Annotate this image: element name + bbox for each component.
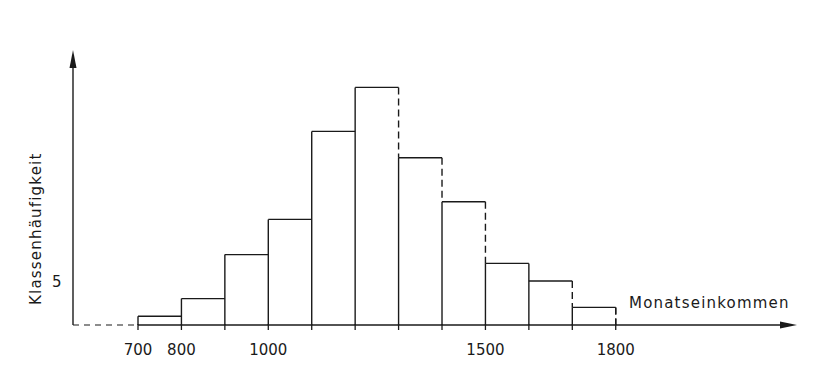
histogram-bar (442, 202, 485, 325)
x-tick-label-700: 700 (124, 341, 153, 359)
y-axis-label: Klassenhäufigkeit (27, 152, 45, 305)
histogram-bar (572, 307, 615, 325)
histogram-bars (138, 87, 616, 325)
x-tick-label-1500: 1500 (466, 341, 504, 359)
histogram-bar (529, 281, 572, 325)
histogram-bar (355, 87, 398, 325)
x-tick-label-1800: 1800 (597, 341, 635, 359)
histogram-bar (399, 158, 442, 325)
y-axis-arrow-icon (70, 50, 77, 68)
histogram-bar (138, 316, 181, 325)
histogram-bar (225, 255, 268, 325)
y-tick-label-5: 5 (52, 273, 62, 291)
histogram-bar (485, 263, 528, 325)
y-axis (70, 50, 77, 325)
x-axis-label: Monatseinkommen (629, 294, 790, 312)
x-ticks: 700800100015001800 (124, 324, 635, 359)
x-axis-arrow-icon (780, 322, 797, 329)
histogram-bar (181, 299, 224, 325)
x-tick-label-1000: 1000 (249, 341, 287, 359)
histogram-bar (268, 219, 311, 325)
histogram-bar (312, 131, 355, 325)
x-tick-label-800: 800 (167, 341, 196, 359)
histogram-chart: 700800100015001800 Klassenhäufigkeit 5 M… (0, 0, 817, 376)
